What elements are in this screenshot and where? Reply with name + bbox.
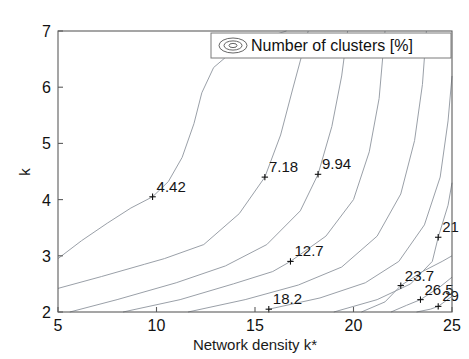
x-tick-label-10: 10 xyxy=(148,317,166,334)
contour-label-7-18: 7.18 xyxy=(269,158,298,175)
contour-label-29: 29 xyxy=(442,287,459,304)
contour-label-12-7: 12.7 xyxy=(295,242,324,259)
y-axis-label: k xyxy=(16,168,33,176)
contour-label-9-94: 9.94 xyxy=(322,155,351,172)
x-tick-label-20: 20 xyxy=(345,317,363,334)
contour-label-21: 21 xyxy=(442,218,459,235)
y-tick-label-4: 4 xyxy=(42,192,51,209)
y-tick-label-3: 3 xyxy=(42,248,51,265)
contour-plot-figure: 4.427.189.9412.718.22123.726.529 5101520… xyxy=(0,0,469,359)
x-tick-label-15: 15 xyxy=(246,317,264,334)
contour-label-18-2: 18.2 xyxy=(273,290,302,307)
x-tick-label-5: 5 xyxy=(54,317,63,334)
y-tick-label-7: 7 xyxy=(42,23,51,40)
legend[interactable]: Number of clusters [%] xyxy=(211,33,451,58)
contour-label-4-42: 4.42 xyxy=(157,178,186,195)
legend-label: Number of clusters [%] xyxy=(251,37,413,54)
x-axis-label: Network density k* xyxy=(193,336,317,353)
y-tick-label-5: 5 xyxy=(42,135,51,152)
y-tick-label-2: 2 xyxy=(42,304,51,321)
y-tick-label-6: 6 xyxy=(42,79,51,96)
x-tick-label-25: 25 xyxy=(443,317,461,334)
